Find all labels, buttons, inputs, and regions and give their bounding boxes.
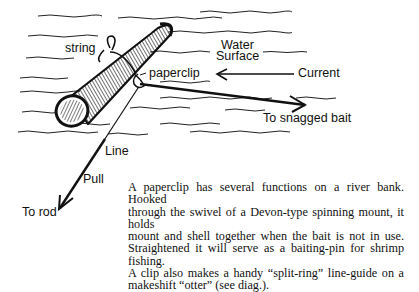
label-current: Current — [298, 67, 340, 80]
label-string: string — [65, 42, 96, 55]
paperclip-icon — [134, 74, 145, 88]
caption-line: Straightened it will serve as a baiting-… — [128, 242, 404, 267]
label-paperclip: paperclip — [149, 67, 200, 80]
caption-paragraph: A paperclip has several functions on a r… — [128, 181, 404, 292]
label-water-surface-2: Surface — [216, 50, 259, 63]
label-pull: Pull — [83, 173, 104, 186]
caption-line: A paperclip has several functions on a r… — [128, 181, 404, 206]
current-arrow — [217, 69, 294, 80]
caption-line: through the swivel of a Devon-type spinn… — [128, 206, 404, 231]
label-line: Line — [105, 145, 129, 158]
caption-line: makeshift “otter” (see diag.). — [128, 279, 404, 291]
label-snagged-bait: To snagged bait — [263, 112, 351, 125]
label-to-rod: To rod — [22, 206, 57, 219]
